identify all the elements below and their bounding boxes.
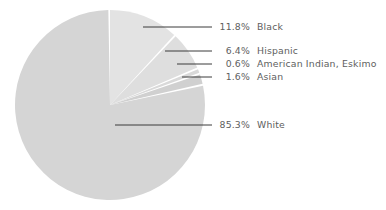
pie-chart-figure: 11.8%Black6.4%Hispanic0.6%American India… xyxy=(0,0,386,210)
pie-chart-canvas xyxy=(0,0,386,210)
pie-slice-group xyxy=(15,10,205,200)
